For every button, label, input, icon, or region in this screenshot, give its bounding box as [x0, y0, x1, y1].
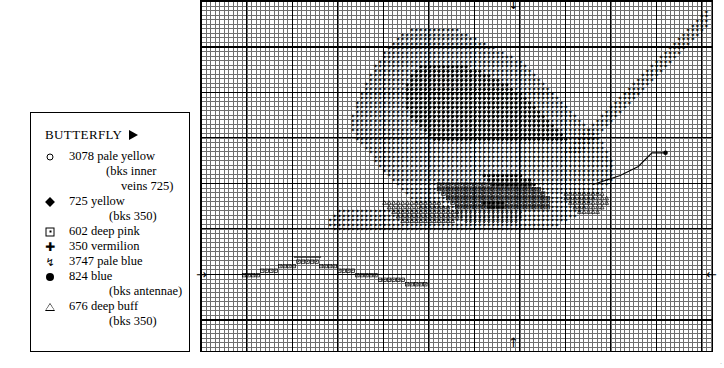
legend-item-color: pale yellow	[97, 149, 155, 163]
centre-marker-left-icon: →	[196, 268, 207, 281]
legend-item: 602 deep pink	[31, 224, 189, 239]
legend-item: 725 yellow	[31, 194, 189, 209]
legend-item: 824 blue	[31, 269, 189, 284]
svg-text:✦: ✦	[554, 222, 559, 228]
legend-title-text: BUTTERFLY	[45, 127, 122, 143]
legend-item-label: 3747 pale blue	[69, 254, 143, 269]
legend-item: ↯ 3747 pale blue	[31, 254, 189, 269]
legend-item-color: pale blue	[97, 254, 142, 268]
legend-item: 676 deep buff	[31, 299, 189, 314]
svg-text:✦: ✦	[545, 226, 550, 232]
legend-item-code: 350	[69, 239, 88, 253]
legend-item-note: (bks 350)	[31, 314, 189, 329]
legend-item-code: 725	[69, 194, 88, 208]
legend-item-label: 350 vermilion	[69, 239, 139, 254]
legend-item-code: 824	[69, 269, 88, 283]
legend-item-color: yellow	[91, 194, 125, 208]
triangle-open-icon	[31, 299, 69, 314]
cross-stitch-chart[interactable]: ✦✦✦✦✦✦✦✦✦✦✦✦✦✦✦✦✦✦✦✦✦✦✦✦✦✦✦✦✦✦✦✦✦✦✦✦✦✦✦✦…	[200, 0, 713, 352]
circle-open-icon	[31, 149, 69, 164]
legend-item: 3078 pale yellow	[31, 149, 189, 164]
arrow-down-icon: ↯	[31, 254, 69, 269]
legend-item-code: 676	[69, 299, 88, 313]
svg-text:✦: ✦	[573, 213, 578, 219]
legend-item-color: vermilion	[91, 239, 140, 253]
centre-marker-bottom-icon: ↑	[508, 336, 519, 349]
club-icon: ✚	[31, 239, 69, 254]
legend-item-label: 602 deep pink	[69, 224, 140, 239]
legend-item-code: 3747	[69, 254, 94, 268]
legend-item-list: 3078 pale yellow (bks inner veins 725) 7…	[31, 149, 189, 329]
legend-item-color: deep pink	[91, 224, 140, 238]
legend-item-label: 725 yellow	[69, 194, 125, 209]
svg-text:✦: ✦	[704, 9, 709, 15]
circle-filled-icon	[31, 269, 69, 284]
legend-item-label: 3078 pale yellow	[69, 149, 155, 164]
corner-mark: ·	[720, 360, 722, 366]
svg-text:✦: ✦	[604, 181, 609, 187]
centre-marker-top-icon: ↓	[508, 0, 519, 11]
triangle-right-icon	[129, 130, 138, 140]
legend-item-label: 824 blue	[69, 269, 112, 284]
legend-item-note: (bks inner	[31, 164, 189, 179]
legend-item-code: 602	[69, 224, 88, 238]
svg-text:✦: ✦	[563, 217, 568, 223]
legend-item-color: deep buff	[91, 299, 138, 313]
legend-title: BUTTERFLY	[45, 127, 138, 143]
legend-item-label: 676 deep buff	[69, 299, 138, 314]
stitch-symbol-layer: ✦✦✦✦✦✦✦✦✦✦✦✦✦✦✦✦✦✦✦✦✦✦✦✦✦✦✦✦✦✦✦✦✦✦✦✦✦✦✦✦…	[201, 1, 712, 352]
square-dot-icon	[31, 224, 69, 239]
legend-item-note: (bks 350)	[31, 209, 189, 224]
diamond-filled-icon	[31, 194, 69, 209]
legend-item: ✚ 350 vermilion	[31, 239, 189, 254]
legend-panel: BUTTERFLY 3078 pale yellow (bks inner ve…	[30, 112, 190, 352]
svg-text:✦: ✦	[600, 186, 605, 192]
centre-marker-right-icon: ←	[706, 268, 717, 281]
legend-item-note: (bks antennae)	[31, 284, 189, 299]
legend-item-code: 3078	[69, 149, 94, 163]
legend-item-note: veins 725)	[31, 179, 189, 194]
legend-item-color: blue	[91, 269, 113, 283]
